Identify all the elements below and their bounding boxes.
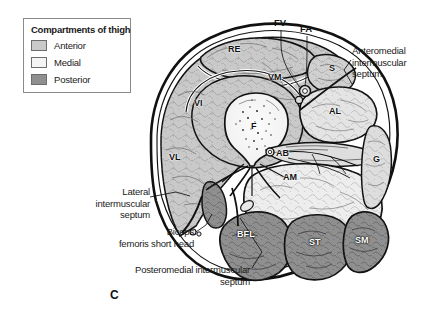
label-semitendinosus: ST xyxy=(309,237,321,247)
label-femoral-artery: FA xyxy=(300,23,312,34)
label-biceps-femoris-long-head: BFL xyxy=(237,229,255,239)
panel-letter: C xyxy=(110,288,119,302)
label-vastus-intermedius: VI xyxy=(194,98,203,108)
label-femur: F xyxy=(251,121,257,131)
annotation-anteromedial-septum: Anteromedial intermuscular septum xyxy=(352,45,430,80)
annotation-posteromedial-septum: Posteromedial intermuscular septum xyxy=(104,264,250,287)
label-sartorius: S xyxy=(329,63,335,73)
figure-page: Compartments of thigh Anterior Medial Po… xyxy=(0,0,431,311)
label-gracilis: G xyxy=(373,154,380,164)
label-vastus-medialis: VM xyxy=(268,72,282,82)
label-adductor-brevis: AB xyxy=(276,148,289,158)
label-adductor-longus: AL xyxy=(329,106,341,116)
label-semimembranosus: SM xyxy=(355,235,369,245)
label-femoral-vein: FV xyxy=(274,17,286,28)
label-rectus-femoris: RE xyxy=(228,44,241,54)
label-adductor-magnus: AM xyxy=(283,172,297,182)
annotation-lateral-septum: Lateral intermuscular septum xyxy=(58,186,150,221)
label-vastus-lateralis: VL xyxy=(169,152,181,162)
annotation-biceps-short-head: Biceps femoris short head xyxy=(88,226,194,249)
